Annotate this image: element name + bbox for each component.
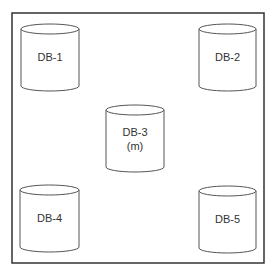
cylinder-top-icon [199, 24, 256, 34]
database-label: DB-5 [215, 213, 240, 225]
cylinder-top-icon [21, 24, 79, 34]
diagram-canvas: DB-1DB-2DB-3(m)DB-4DB-5 [0, 0, 277, 274]
database-label: DB-3 [122, 126, 147, 138]
database-sublabel: (m) [127, 140, 144, 152]
database-node-db4: DB-4 [20, 185, 79, 252]
cylinder-top-icon [106, 105, 164, 115]
database-node-db2: DB-2 [199, 24, 256, 91]
database-label: DB-2 [215, 51, 240, 63]
database-label: DB-1 [37, 51, 62, 63]
database-node-db3: DB-3(m) [106, 105, 164, 172]
cylinder-top-icon [20, 185, 79, 195]
cylinder-top-icon [199, 186, 256, 196]
database-node-db1: DB-1 [21, 24, 79, 91]
database-node-db5: DB-5 [199, 186, 256, 253]
database-label: DB-4 [37, 212, 62, 224]
